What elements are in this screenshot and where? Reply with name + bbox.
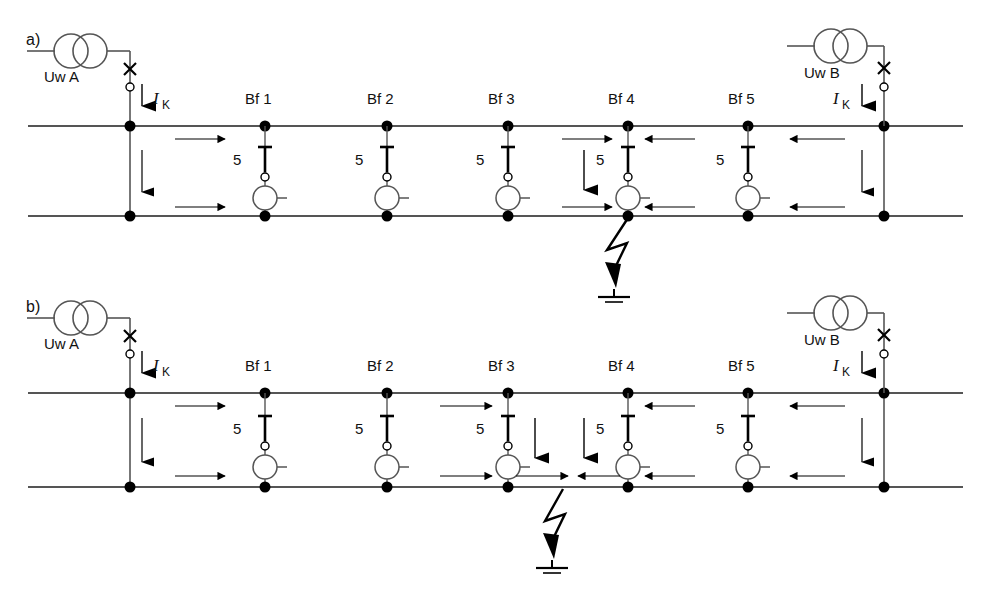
transformer-uw-a-panel-b: Uw A [27, 301, 130, 352]
feeder-bf2-label: Bf 2 [367, 357, 394, 374]
feeder-machine-icon [616, 186, 640, 210]
feeder-bf3-panel-b: Bf 3 5 [476, 357, 535, 493]
infeed-a-leg-panel-a: I K [124, 51, 170, 126]
feeder-bf4-rating: 5 [596, 420, 604, 437]
panel-b: b) Uw A I K [26, 296, 963, 573]
ik-label-a-k: K [162, 365, 170, 379]
node-dot [260, 482, 271, 493]
feeder-bf1-label: Bf 1 [245, 90, 272, 107]
feeder-bf3-panel-a: Bf 3 5 [476, 90, 530, 222]
fault-symbol-panel-b [536, 489, 568, 573]
ik-label-a-i: I [152, 356, 160, 375]
feeder-bf4-panel-a: Bf 4 5 [584, 90, 650, 222]
transformer-winding-secondary-icon [833, 29, 867, 63]
node-dot [503, 482, 514, 493]
transformer-winding-secondary-icon [73, 34, 107, 68]
node-dot [260, 211, 271, 222]
feeder-machine-icon [253, 186, 277, 210]
feeder-bf5-label: Bf 5 [728, 90, 755, 107]
fault-arrowhead-icon [605, 262, 621, 288]
panel-a: a) Uw A I K [26, 29, 963, 302]
transformer-winding-secondary-icon [833, 296, 867, 330]
node-dot [125, 388, 136, 399]
feeder-bf2-panel-a: Bf 2 5 [355, 90, 409, 222]
feeder-bf4-label: Bf 4 [608, 357, 635, 374]
node-dot [503, 211, 514, 222]
feeder-bf2-rating: 5 [355, 420, 363, 437]
feeder-bf1-rating: 5 [233, 151, 241, 168]
feeder-bf2-label: Bf 2 [367, 90, 394, 107]
feeder-machine-icon [496, 186, 520, 210]
node-dot [382, 482, 393, 493]
feeder-machine-icon [375, 455, 399, 479]
ik-label-b-i: I [832, 356, 840, 375]
feeder-bf1-panel-b: Bf 1 5 [233, 357, 287, 493]
feeder-machine-icon [253, 455, 277, 479]
feeder-bf5-panel-b: Bf 5 5 [716, 357, 770, 493]
transformer-winding-primary-icon [814, 29, 848, 63]
feeder-bf5-label: Bf 5 [728, 357, 755, 374]
diagram-canvas: a) Uw A I K [0, 0, 991, 605]
node-dot [125, 211, 136, 222]
feeder-bf5-panel-a: Bf 5 5 [716, 90, 770, 222]
node-dot [125, 121, 136, 132]
feeder-disconnector-icon [383, 442, 391, 450]
node-dot [879, 482, 890, 493]
transformer-uw-b-panel-b: Uw B [787, 296, 884, 348]
feeder-machine-icon [736, 186, 760, 210]
transformer-winding-primary-icon [54, 34, 88, 68]
transformer-uw-a-label: Uw A [44, 335, 79, 352]
feeder-bf2-panel-b: Bf 2 5 [355, 357, 409, 493]
feeder-machine-icon [375, 186, 399, 210]
panel-a-label: a) [26, 31, 40, 48]
node-dot [879, 211, 890, 222]
feeder-bf1-panel-a: Bf 1 5 [233, 90, 287, 222]
feeder-disconnector-icon [624, 173, 632, 181]
feeder-bf1-label: Bf 1 [245, 357, 272, 374]
diagram-sheet: a) Uw A I K [0, 0, 991, 605]
feeder-disconnector-icon [261, 173, 269, 181]
feeder-disconnector-icon [744, 442, 752, 450]
feeder-bf4-label: Bf 4 [608, 90, 635, 107]
feeder-bf4-rating: 5 [596, 151, 604, 168]
disconnector-a-icon [126, 350, 134, 358]
feeder-bf1-rating: 5 [233, 420, 241, 437]
node-dot [743, 211, 754, 222]
transformer-winding-primary-icon [814, 296, 848, 330]
feeder-bf4-panel-b: Bf 4 5 [584, 357, 650, 493]
node-dot [382, 211, 393, 222]
feeder-bf3-rating: 5 [476, 151, 484, 168]
feeder-disconnector-icon [261, 442, 269, 450]
feeder-disconnector-icon [744, 173, 752, 181]
feeder-bf5-rating: 5 [716, 151, 724, 168]
feeder-disconnector-icon [383, 173, 391, 181]
transformer-uw-a-label: Uw A [44, 68, 79, 85]
disconnector-a-icon [126, 83, 134, 91]
fault-symbol-panel-a [598, 218, 630, 302]
feeder-machine-icon [736, 455, 760, 479]
feeder-bf5-rating: 5 [716, 420, 724, 437]
disconnector-b-icon [880, 83, 888, 91]
ik-label-b-i: I [832, 89, 840, 108]
node-dot [125, 482, 136, 493]
feeder-disconnector-icon [504, 173, 512, 181]
transformer-uw-b-panel-a: Uw B [787, 29, 884, 81]
disconnector-b-icon [880, 350, 888, 358]
transformer-winding-secondary-icon [73, 301, 107, 335]
ik-label-a-i: I [152, 89, 160, 108]
ik-label-b-k: K [842, 98, 850, 112]
infeed-a-leg-panel-b: I K [124, 318, 170, 393]
transformer-uw-a-panel-a: Uw A [27, 34, 130, 85]
transformer-uw-b-label: Uw B [804, 331, 840, 348]
feeder-bf3-label: Bf 3 [488, 90, 515, 107]
feeder-disconnector-icon [624, 442, 632, 450]
node-dot [623, 482, 634, 493]
transformer-uw-b-label: Uw B [804, 64, 840, 81]
feeder-bf3-rating: 5 [476, 420, 484, 437]
transformer-winding-primary-icon [54, 301, 88, 335]
feeder-disconnector-icon [504, 442, 512, 450]
fault-arrowhead-icon [543, 533, 559, 559]
feeder-bf3-label: Bf 3 [488, 357, 515, 374]
node-dot [743, 482, 754, 493]
panel-b-label: b) [26, 298, 40, 315]
